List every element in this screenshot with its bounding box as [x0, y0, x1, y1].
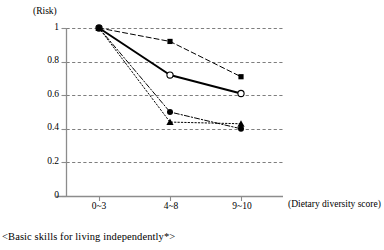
data-point-open-circle	[238, 90, 244, 96]
y-tick-marks	[62, 29, 67, 197]
x-tick-label-4-8: 4~8	[148, 201, 194, 211]
data-point-filled-square	[167, 39, 172, 44]
data-point-open-circle	[167, 72, 173, 78]
y-tick-label-0-8: 0.8	[33, 55, 59, 65]
gridlines-group	[67, 29, 284, 163]
figure-container: (Risk) (Dietary diversity score) 1 0.8 0…	[0, 0, 384, 250]
series-open-circle	[96, 25, 244, 97]
data-point-filled-triangle	[237, 120, 244, 127]
data-series-layer	[95, 24, 244, 131]
x-axis-title: (Dietary diversity score)	[288, 199, 381, 209]
y-axis-title: (Risk)	[33, 6, 57, 16]
figure-caption: <Basic skills for living independently*>	[2, 231, 175, 242]
data-point-filled-circle	[167, 109, 173, 115]
x-tick-label-0-3: 0~3	[76, 201, 122, 211]
series-line	[99, 28, 241, 77]
y-tick-label-0-2: 0.2	[33, 156, 59, 166]
y-tick-label-0-4: 0.4	[33, 122, 59, 132]
y-tick-label-0-6: 0.6	[33, 89, 59, 99]
x-tick-label-9-10: 9~10	[219, 201, 265, 211]
y-tick-label-1: 1	[33, 22, 59, 32]
series-line	[99, 28, 241, 94]
series-filled-square	[96, 25, 243, 79]
data-point-filled-square	[238, 74, 243, 79]
y-tick-label-0: 0	[33, 190, 59, 200]
